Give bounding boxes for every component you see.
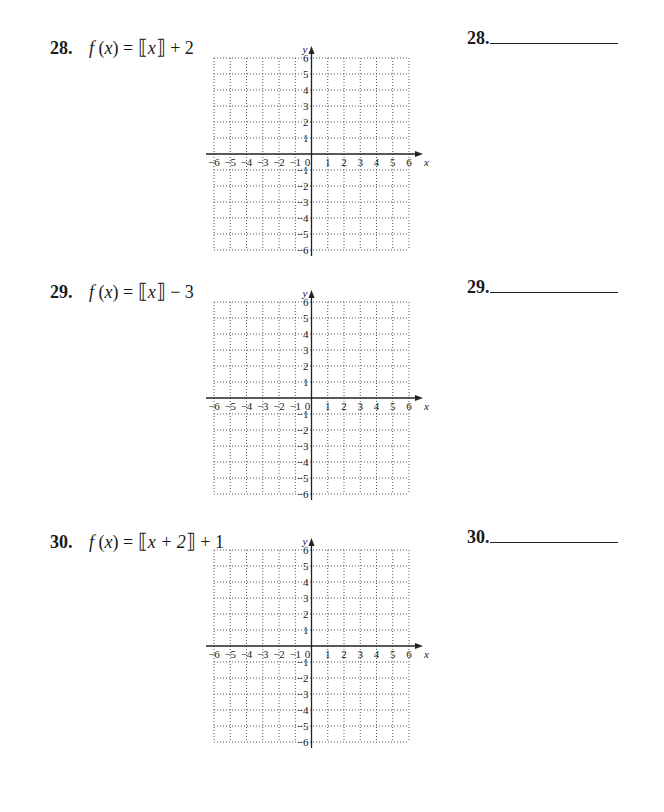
y-axis-arrow-icon bbox=[309, 538, 315, 546]
coordinate-grid[interactable]: xy−6−5−4−3−2−10123456123456−1−2−3−4−5−6 bbox=[0, 0, 664, 812]
x-tick-label: −2 bbox=[273, 648, 285, 660]
y-tick-label: −1 bbox=[297, 656, 309, 668]
y-tick-label: 6 bbox=[303, 544, 309, 556]
y-tick-label: −6 bbox=[297, 736, 309, 748]
y-tick-label: −3 bbox=[297, 688, 309, 700]
y-tick-label: −5 bbox=[297, 720, 309, 732]
x-tick-label: 6 bbox=[406, 648, 412, 660]
x-tick-label: 4 bbox=[374, 648, 380, 660]
y-tick-label: 2 bbox=[303, 608, 309, 620]
x-axis-arrow-icon bbox=[415, 643, 423, 649]
x-tick-label: −3 bbox=[257, 648, 269, 660]
x-tick-label: 5 bbox=[390, 648, 396, 660]
x-axis-label: x bbox=[423, 648, 429, 660]
y-tick-label: 5 bbox=[303, 560, 309, 572]
y-tick-label: 1 bbox=[303, 624, 309, 636]
axes: xy bbox=[206, 535, 429, 748]
y-tick-label: 3 bbox=[303, 592, 309, 604]
x-tick-label: −5 bbox=[224, 648, 236, 660]
x-tick-label: −4 bbox=[241, 648, 253, 660]
x-tick-label: −6 bbox=[208, 648, 220, 660]
x-tick-label: 3 bbox=[358, 648, 364, 660]
x-tick-label: 2 bbox=[341, 648, 347, 660]
y-tick-label: −4 bbox=[297, 704, 309, 716]
x-tick-label: 1 bbox=[325, 648, 331, 660]
y-tick-label: −2 bbox=[297, 672, 309, 684]
y-tick-label: 4 bbox=[303, 576, 309, 588]
